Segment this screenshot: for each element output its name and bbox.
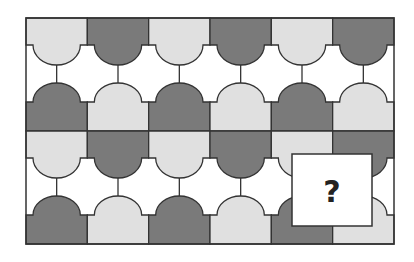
question-mark: ? [323,174,340,209]
missing-piece-box[interactable]: ? [292,154,372,226]
pattern-puzzle: ? [0,0,414,262]
